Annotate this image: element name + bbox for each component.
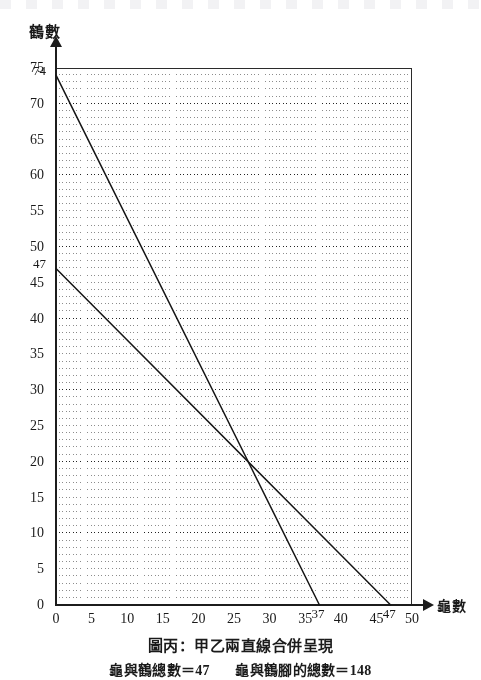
- y-tick-label: 45: [10, 276, 44, 290]
- x-tick-label: 10: [112, 612, 142, 626]
- subcaption-total-legs: 龜與鶴腳的總數＝148: [235, 663, 371, 678]
- y-tick-label: 0: [10, 598, 44, 612]
- figure-subcaption: 龜與鶴總數＝47 龜與鶴腳的總數＝148: [0, 659, 481, 679]
- y-tick-label: 20: [10, 455, 44, 469]
- y-axis-title: 鶴數: [29, 20, 61, 41]
- figure-caption: 圖丙：甲乙兩直線合併呈現: [0, 634, 481, 655]
- x-axis-line: [56, 604, 424, 606]
- x-axis-arrow-icon: [423, 599, 434, 611]
- x-tick-label: 15: [148, 612, 178, 626]
- major-gridlines: [56, 68, 412, 605]
- x-axis-title: 龜數: [437, 595, 467, 615]
- x-tick-label: 20: [183, 612, 213, 626]
- y-tick-label: 50: [10, 240, 44, 254]
- y-tick-label: 55: [10, 204, 44, 218]
- x-intercept-label: 37: [311, 606, 324, 622]
- subcaption-total-animals: 龜與鶴總數＝47: [109, 663, 209, 678]
- x-tick-label: 25: [219, 612, 249, 626]
- x-intercept-label: 47: [383, 606, 396, 622]
- figure-chart: 鶴數 龜數 051015202530354045505560657075 051…: [0, 0, 481, 680]
- y-tick-label: 60: [10, 168, 44, 182]
- y-tick-label: 5: [10, 562, 44, 576]
- plot-grid-area: [56, 68, 412, 605]
- y-tick-label: 65: [10, 133, 44, 147]
- y-tick-label: 25: [10, 419, 44, 433]
- y-intercept-label: 47: [33, 256, 46, 272]
- y-tick-label: 10: [10, 526, 44, 540]
- x-tick-label: 5: [77, 612, 107, 626]
- y-tick-label: 15: [10, 491, 44, 505]
- x-tick-label: 40: [326, 612, 356, 626]
- x-tick-label: 0: [41, 612, 71, 626]
- y-axis-line: [55, 44, 57, 606]
- y-intercept-label: 74: [33, 63, 46, 79]
- y-tick-label: 30: [10, 383, 44, 397]
- x-tick-label: 30: [255, 612, 285, 626]
- y-tick-label: 35: [10, 347, 44, 361]
- x-tick-label: 50: [397, 612, 427, 626]
- y-tick-label: 70: [10, 97, 44, 111]
- y-tick-label: 40: [10, 312, 44, 326]
